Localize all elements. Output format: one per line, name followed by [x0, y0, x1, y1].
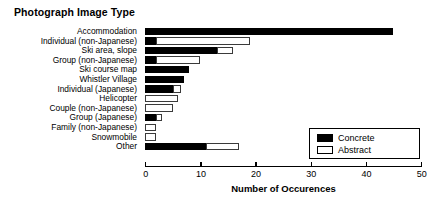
x-tick-mark: [311, 162, 312, 167]
bar-segment-concrete: [145, 66, 189, 73]
legend-item-label: Abstract: [338, 145, 371, 155]
legend-item-concrete: Concrete: [317, 132, 419, 144]
x-tick-mark: [145, 162, 146, 167]
x-tick-mark: [366, 162, 367, 167]
bar-row: [145, 94, 421, 104]
stacked-bar: [145, 56, 200, 63]
x-tick-label: 20: [251, 169, 261, 179]
bar-segment-concrete: [145, 143, 206, 150]
x-tick-mark: [255, 162, 256, 167]
x-tick-label: 30: [306, 169, 316, 179]
x-tick-label: 50: [417, 169, 427, 179]
bar-segment-abstract: [156, 56, 200, 63]
stacked-bar: [145, 133, 156, 140]
bar-row: [145, 46, 421, 56]
chart-legend: Concrete Abstract: [309, 128, 420, 159]
x-tick-mark: [421, 162, 422, 167]
stacked-bar: [145, 47, 233, 54]
bar-segment-abstract: [145, 104, 173, 111]
stacked-bar: [145, 66, 189, 73]
stacked-bar: [145, 95, 178, 102]
stacked-bar: [145, 114, 162, 121]
bar-segment-concrete: [145, 28, 393, 35]
bar-segment-concrete: [145, 76, 184, 83]
legend-item-abstract: Abstract: [317, 144, 419, 156]
bar-segment-concrete: [145, 56, 156, 63]
x-tick-label: 10: [196, 169, 206, 179]
bar-segment-abstract: [217, 47, 234, 54]
bar-segment-concrete: [145, 85, 173, 92]
stacked-bar: [145, 28, 393, 35]
bar-segment-abstract: [173, 85, 181, 92]
bar-row: [145, 75, 421, 85]
bar-segment-abstract: [156, 37, 250, 44]
bar-segment-abstract: [206, 143, 239, 150]
stacked-bar: [145, 37, 250, 44]
stacked-bar: [145, 124, 156, 131]
bar-segment-abstract: [145, 133, 156, 140]
x-tick-label: 0: [143, 169, 148, 179]
bar-segment-abstract: [145, 124, 156, 131]
bar-segment-concrete: [145, 47, 217, 54]
bar-segment-abstract: [156, 114, 162, 121]
outlined-white-swatch-icon: [317, 146, 333, 154]
bar-row: [145, 27, 421, 37]
bar-segment-abstract: [145, 95, 178, 102]
bar-row: [145, 65, 421, 75]
bar-row: [145, 85, 421, 95]
filled-black-swatch-icon: [317, 134, 333, 142]
legend-item-label: Concrete: [338, 133, 375, 143]
stacked-bar: [145, 104, 173, 111]
x-tick-mark: [200, 162, 201, 167]
x-axis-title: Number of Occurences: [145, 183, 422, 194]
x-axis-line: [145, 166, 422, 167]
stacked-bar: [145, 76, 184, 83]
page-title: Photograph Image Type: [14, 6, 135, 18]
bar-segment-concrete: [145, 114, 156, 121]
x-tick-label: 40: [361, 169, 371, 179]
bar-chart: Photograph Image Type AccommodationIndiv…: [0, 0, 445, 202]
bar-segment-concrete: [145, 37, 156, 44]
bar-row: [145, 37, 421, 47]
category-label: Other: [0, 142, 141, 152]
bar-row: [145, 104, 421, 114]
stacked-bar: [145, 85, 181, 92]
bar-row: [145, 56, 421, 66]
bar-row: [145, 113, 421, 123]
category-axis-labels: AccommodationIndividual (non-Japanese)Sk…: [0, 27, 141, 152]
stacked-bar: [145, 143, 239, 150]
